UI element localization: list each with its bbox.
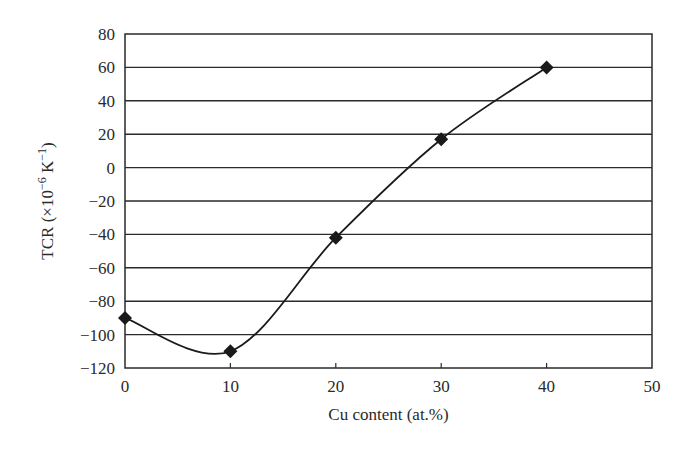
y-title-mid: K	[38, 160, 57, 177]
horizontal-gridlines	[125, 67, 652, 334]
x-tick-label: 40	[538, 377, 555, 396]
y-tick-label: −100	[80, 326, 115, 345]
x-tick-label: 50	[644, 377, 661, 396]
y-title-prefix: TCR (×10	[38, 190, 57, 260]
x-tick-label: 20	[327, 377, 344, 396]
tcr-curve	[125, 67, 547, 354]
y-title-exp1: −6	[35, 177, 49, 190]
y-tick-label: 0	[107, 159, 116, 178]
diamond-marker	[223, 344, 237, 358]
y-title-exp2: −1	[35, 148, 49, 161]
x-tick-label: 0	[121, 377, 130, 396]
y-tick-label: 80	[98, 25, 115, 44]
y-axis-tick-labels: 806040200−20−40−60−80−100−120	[80, 25, 115, 378]
x-axis-title: Cu content (at.%)	[328, 405, 448, 424]
y-tick-label: 60	[98, 58, 115, 77]
diamond-marker	[540, 60, 554, 74]
y-title-suffix: )	[38, 142, 57, 148]
y-tick-label: −120	[80, 359, 115, 378]
x-axis-tick-labels: 01020304050	[121, 377, 661, 396]
diamond-marker	[118, 311, 132, 325]
y-tick-label: −80	[88, 292, 115, 311]
x-tick-label: 30	[433, 377, 450, 396]
x-tick-label: 10	[222, 377, 239, 396]
y-axis-title: TCR (×10−6 K−1)	[35, 142, 57, 259]
tcr-line-chart: 806040200−20−40−60−80−100−120 0102030405…	[0, 0, 689, 451]
y-tick-label: −40	[88, 225, 115, 244]
y-tick-label: −60	[88, 259, 115, 278]
y-tick-label: −20	[88, 192, 115, 211]
y-tick-label: 20	[98, 125, 115, 144]
y-tick-label: 40	[98, 92, 115, 111]
